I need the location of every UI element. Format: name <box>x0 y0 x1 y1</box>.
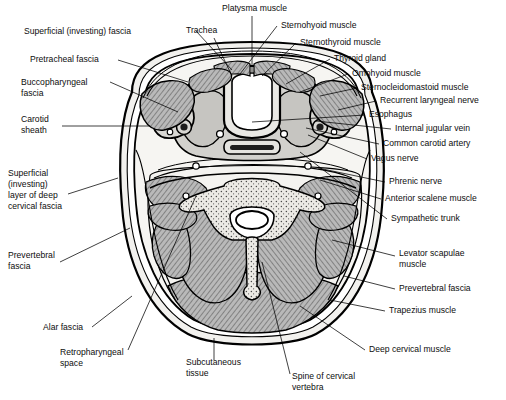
label-sternohyoid-muscle: Sternohyoid muscle <box>281 20 357 30</box>
label-line: Phrenic nerve <box>389 176 442 186</box>
label-line: Superficial (investing) fascia <box>24 26 131 36</box>
label-superficial-investing-fascia: Superficial (investing) fascia <box>24 26 131 36</box>
label-common-carotid-artery: Common carotid artery <box>383 138 471 148</box>
sympathetic-trunk-right <box>305 163 311 169</box>
label-line: Pretracheal fascia <box>30 54 99 64</box>
label-line: Esophagus <box>369 109 412 119</box>
label-spine-of-cervical-vertebra: Spine of cervicalvertebra <box>292 371 355 392</box>
label-pretracheal-fascia: Pretracheal fascia <box>30 54 99 64</box>
label-buccopharyngeal-fascia: Buccopharyngealfascia <box>21 77 87 98</box>
label-line: Sternothyroid muscle <box>300 37 381 47</box>
spinal-cord <box>236 211 268 229</box>
label-phrenic-nerve: Phrenic nerve <box>389 176 442 186</box>
label-line: Recurrent laryngeal nerve <box>380 95 479 105</box>
neck-cross-section-figure: Superficial (investing) fasciaPretrachea… <box>0 0 506 400</box>
label-line: Omohyoid muscle <box>352 68 421 78</box>
label-alar-fascia: Alar fascia <box>43 322 83 332</box>
label-line: Internal jugular vein <box>395 123 470 133</box>
label-line: Sympathetic trunk <box>391 213 460 223</box>
label-esophagus: Esophagus <box>369 109 412 119</box>
lead-alar-fascia <box>92 296 132 327</box>
phrenic-nerve-left <box>183 193 189 199</box>
sympathetic-trunk-left <box>193 163 199 169</box>
label-anterior-scalene-muscle: Anterior scalene muscle <box>385 193 477 203</box>
label-line: Common carotid artery <box>383 138 471 148</box>
label-line: cervical fascia <box>8 201 62 211</box>
label-prevertebral-fascia-left: Prevertebralfascia <box>8 250 55 271</box>
label-line: vertebra <box>292 382 324 392</box>
label-line: Sternohyoid muscle <box>281 20 357 30</box>
label-levator-scapulae-muscle: Levator scapulaemuscle <box>399 248 465 269</box>
label-line: Vagus nerve <box>371 153 419 163</box>
vagus-nerve-left <box>167 129 173 135</box>
label-line: Levator scapulae <box>399 248 465 258</box>
lead-superficial-deep-layer <box>68 178 118 194</box>
label-line: Subcutaneous <box>186 357 241 367</box>
label-line: Prevertebral fascia <box>399 283 471 293</box>
label-line: (investing) <box>8 179 48 189</box>
label-trachea: Trachea <box>186 25 217 35</box>
label-line: Superficial <box>8 168 48 178</box>
label-platysma-muscle: Platysma muscle <box>222 3 287 13</box>
label-subcutaneous-tissue: Subcutaneoustissue <box>186 357 241 378</box>
common-carotid-lumen-left <box>180 123 187 130</box>
label-line: Retropharyngeal <box>60 347 124 357</box>
label-prevertebral-fascia-right: Prevertebral fascia <box>399 283 471 293</box>
label-line: Alar fascia <box>43 322 83 332</box>
label-thyroid-gland: Thyroid gland <box>334 53 386 63</box>
label-line: Platysma muscle <box>222 3 287 13</box>
label-recurrent-laryngeal-nerve: Recurrent laryngeal nerve <box>380 95 479 105</box>
label-line: Buccopharyngeal <box>21 77 87 87</box>
phrenic-nerve-right <box>315 193 321 199</box>
common-carotid-lumen-right <box>316 123 323 130</box>
label-line: Sternocleidomastoid muscle <box>361 82 469 92</box>
label-line: Carotid <box>21 114 49 124</box>
label-line: sheath <box>21 125 47 135</box>
label-line: fascia <box>21 88 44 98</box>
esophagus-lumen <box>230 145 274 150</box>
label-line: tissue <box>186 368 209 378</box>
label-omohyoid-muscle: Omohyoid muscle <box>352 68 421 78</box>
label-line: Prevertebral <box>8 250 55 260</box>
recurrent-laryngeal-nerve-left <box>217 131 224 138</box>
lead-prevertebral-left <box>60 228 130 262</box>
label-line: Spine of cervical <box>292 371 355 381</box>
label-line: Anterior scalene muscle <box>385 193 477 203</box>
label-internal-jugular-vein: Internal jugular vein <box>395 123 470 133</box>
label-line: Thyroid gland <box>334 53 386 63</box>
label-line: layer of deep <box>8 190 58 200</box>
label-sternothyroid-muscle: Sternothyroid muscle <box>300 37 381 47</box>
spinous-process <box>244 237 261 300</box>
label-sternocleidomastoid-muscle: Sternocleidomastoid muscle <box>361 82 469 92</box>
label-deep-cervical-muscle: Deep cervical muscle <box>369 344 451 354</box>
label-vagus-nerve: Vagus nerve <box>371 153 419 163</box>
recurrent-laryngeal-nerve-right <box>281 131 288 138</box>
label-line: Trapezius muscle <box>389 305 456 315</box>
label-trapezius-muscle: Trapezius muscle <box>389 305 456 315</box>
label-line: Trachea <box>186 25 217 35</box>
label-sympathetic-trunk: Sympathetic trunk <box>391 213 460 223</box>
label-line: Deep cervical muscle <box>369 344 451 354</box>
label-retropharyngeal-space: Retropharyngealspace <box>60 347 124 368</box>
label-superficial-investing-layer-deep-cervical-fascia: Superficial(investing)layer of deepcervi… <box>8 168 62 211</box>
label-line: fascia <box>8 261 31 271</box>
label-carotid-sheath: Carotidsheath <box>21 114 49 135</box>
label-line: muscle <box>399 259 426 269</box>
label-line: space <box>60 358 83 368</box>
